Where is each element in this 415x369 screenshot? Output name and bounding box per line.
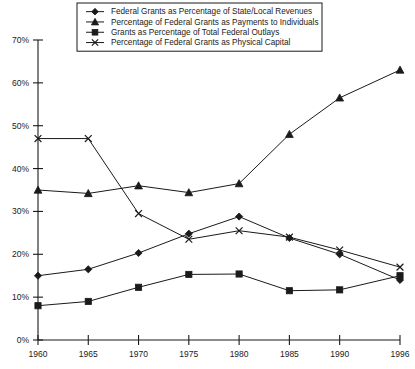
data-point-square — [85, 298, 91, 304]
x-tick-label: 1960 — [29, 349, 48, 359]
data-point-triangle — [135, 182, 143, 189]
data-point-x — [135, 210, 142, 217]
x-tick-label: 1985 — [280, 349, 299, 359]
legend-label: Percentage of Federal Grants as Payments… — [111, 18, 319, 27]
chart-legend: Federal Grants as Percentage of State/Lo… — [77, 3, 322, 51]
y-tick-label: 20% — [12, 249, 29, 259]
y-tick-label: 60% — [12, 78, 29, 88]
data-point-diamond — [34, 272, 41, 279]
x-tick-label: 1975 — [179, 349, 198, 359]
data-point-square — [35, 303, 41, 309]
line-chart: 0%10%20%30%40%50%60%70% 1960196519701975… — [0, 0, 415, 369]
data-point-square — [92, 29, 98, 35]
data-point-diamond — [85, 266, 92, 273]
chart-page: 0%10%20%30%40%50%60%70% 1960196519701975… — [0, 0, 415, 369]
legend-label: Federal Grants as Percentage of State/Lo… — [111, 7, 312, 16]
y-tick-label: 70% — [12, 35, 29, 45]
y-tick-label: 30% — [12, 206, 29, 216]
y-tick-label: 40% — [12, 164, 29, 174]
x-tick-label: 1996 — [391, 349, 410, 359]
data-point-triangle — [336, 94, 344, 101]
data-point-square — [286, 288, 292, 294]
x-tick-label: 1965 — [79, 349, 98, 359]
data-point-triangle — [34, 186, 42, 193]
data-point-x — [397, 264, 404, 271]
y-tick-label: 10% — [12, 292, 29, 302]
data-point-triangle — [396, 66, 404, 73]
data-point-diamond — [236, 213, 243, 220]
series-line — [38, 139, 400, 268]
data-point-square — [337, 287, 343, 293]
series-2 — [34, 66, 404, 197]
x-axis-ticks: 19601965197019751980198519901996 — [29, 335, 410, 359]
x-tick-label: 1970 — [129, 349, 148, 359]
series-line — [38, 217, 400, 280]
legend-label: Percentage of Federal Grants as Physical… — [111, 38, 290, 47]
series-line — [38, 70, 400, 193]
y-tick-label: 50% — [12, 121, 29, 131]
series-layer — [34, 66, 404, 309]
x-tick-label: 1980 — [230, 349, 249, 359]
series-1 — [34, 213, 403, 284]
x-tick-label: 1990 — [330, 349, 349, 359]
data-point-square — [397, 273, 403, 279]
data-point-triangle — [285, 130, 293, 137]
data-point-square — [135, 284, 141, 290]
y-tick-label: 0% — [17, 335, 30, 345]
data-point-diamond — [135, 249, 142, 256]
legend-label: Grants as Percentage of Total Federal Ou… — [111, 28, 279, 37]
data-point-square — [186, 271, 192, 277]
series-3 — [35, 271, 403, 309]
series-4 — [35, 135, 404, 270]
series-line — [38, 274, 400, 306]
data-point-square — [236, 271, 242, 277]
